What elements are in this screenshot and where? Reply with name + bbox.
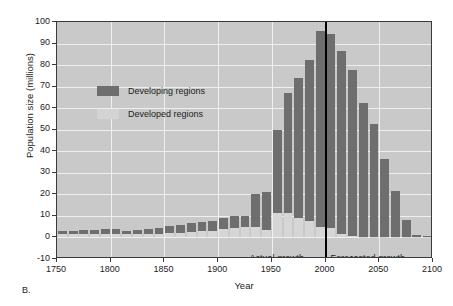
bar-1890 — [208, 221, 217, 238]
bar-2060 — [391, 191, 400, 238]
y-tick-label--10: -10 — [14, 253, 50, 263]
y-tick-label-0: 0 — [14, 231, 50, 241]
bar-segment-developed-1850 — [165, 233, 174, 237]
x-tick-label-2050: 2050 — [358, 264, 398, 274]
bar-segment-developed-1890 — [208, 231, 217, 238]
bar-1950 — [273, 130, 282, 238]
bar-segment-developing-1920 — [241, 216, 250, 227]
bar-segment-developing-2050 — [380, 159, 389, 237]
bar-segment-developing-1860 — [176, 225, 185, 233]
bar-1810 — [122, 231, 131, 238]
bar-1930 — [251, 194, 260, 237]
x-tick-label-1850: 1850 — [143, 264, 183, 274]
legend-swatch-developing — [97, 86, 119, 96]
x-tick-label-1750: 1750 — [36, 264, 76, 274]
y-tick-label-100: 100 — [14, 16, 50, 26]
bar-segment-developed-2010 — [337, 234, 346, 237]
bar-1840 — [155, 228, 164, 237]
x-tick-mark-1900 — [217, 258, 218, 262]
x-tick-label-1800: 1800 — [90, 264, 130, 274]
y-tick-mark-20 — [52, 193, 56, 194]
bar-segment-developing-2000 — [327, 34, 336, 228]
bar-1830 — [144, 229, 153, 237]
bar-1980 — [305, 60, 314, 238]
bar-segment-developing-1910 — [230, 216, 239, 228]
x-tick-label-2000: 2000 — [305, 264, 345, 274]
x-tick-mark-2050 — [378, 258, 379, 262]
y-tick-mark-50 — [52, 129, 56, 130]
bar-1870 — [187, 223, 196, 237]
bar-segment-developing-1960 — [284, 93, 293, 213]
gridline-y-90 — [57, 44, 431, 45]
bar-segment-developing-1880 — [198, 222, 207, 231]
bar-1880 — [198, 222, 207, 237]
bar-segment-developed-1780 — [90, 234, 99, 237]
bar-1900 — [219, 218, 228, 237]
bar-segment-developed-1830 — [144, 234, 153, 238]
bar-segment-developing-1990 — [316, 31, 325, 227]
bar-segment-developed-1870 — [187, 232, 196, 237]
bar-segment-developing-2010 — [337, 51, 346, 234]
population-growth-figure: Actual growth Forecasted growth Developi… — [0, 0, 453, 306]
bar-segment-developed-1760 — [69, 234, 78, 237]
bar-1910 — [230, 216, 239, 237]
x-axis-title: Year — [56, 280, 432, 291]
bar-segment-developing-1870 — [187, 223, 196, 232]
bar-2020 — [348, 70, 357, 237]
x-tick-label-1900: 1900 — [197, 264, 237, 274]
bar-1780 — [90, 230, 99, 238]
bar-1790 — [101, 229, 110, 237]
gridline-y-80 — [57, 65, 431, 66]
legend-label-developed: Developed regions — [128, 109, 203, 119]
bar-segment-developing-1970 — [294, 78, 303, 218]
y-tick-mark-10 — [52, 215, 56, 216]
bar-segment-developed-1990 — [316, 227, 325, 238]
bar-segment-developed-1790 — [101, 234, 110, 237]
legend-swatch-developed — [97, 109, 119, 119]
bar-2040 — [370, 124, 379, 238]
y-tick-label-10: 10 — [14, 209, 50, 219]
bar-segment-developed-1840 — [155, 234, 164, 238]
bar-1750 — [58, 231, 67, 237]
y-tick-mark-60 — [52, 107, 56, 108]
bar-segment-developed-1770 — [79, 234, 88, 237]
y-tick-mark-0 — [52, 236, 56, 237]
x-tick-mark-1850 — [163, 258, 164, 262]
bar-1860 — [176, 225, 185, 238]
bar-segment-developed-1970 — [294, 218, 303, 237]
bar-1920 — [241, 216, 250, 238]
y-tick-label-20: 20 — [14, 188, 50, 198]
y-tick-mark-80 — [52, 64, 56, 65]
bar-2000 — [327, 34, 336, 238]
bar-1800 — [112, 229, 121, 238]
bar-segment-developed-1900 — [219, 229, 228, 237]
bar-segment-developed-1860 — [176, 233, 185, 238]
forecasted-growth-label: Forecasted growth — [331, 253, 406, 258]
x-tick-mark-1800 — [110, 258, 111, 262]
bar-1960 — [284, 93, 293, 237]
bar-segment-developed-1920 — [241, 227, 250, 237]
x-tick-mark-2100 — [432, 258, 433, 262]
bar-2080 — [412, 235, 421, 238]
bar-segment-developed-1940 — [262, 230, 271, 238]
bar-segment-developed-1880 — [198, 231, 207, 237]
bar-segment-developed-1960 — [284, 213, 293, 238]
bar-segment-developed-1980 — [305, 221, 314, 237]
bar-segment-developed-1910 — [230, 228, 239, 237]
y-tick-mark-30 — [52, 172, 56, 173]
bar-2030 — [359, 103, 368, 237]
bar-2090 — [423, 236, 432, 237]
bar-segment-developing-1900 — [219, 218, 228, 229]
bar-segment-developing-1890 — [208, 221, 217, 231]
bar-segment-developing-1950 — [273, 130, 282, 213]
bar-1970 — [294, 78, 303, 237]
actual-growth-label: Actual growth — [250, 253, 305, 258]
bar-segment-developing-2070 — [402, 220, 411, 237]
panel-label: B. — [22, 285, 31, 295]
bar-segment-developing-2030 — [359, 103, 368, 237]
x-tick-mark-1750 — [56, 258, 57, 262]
actual-forecast-divider — [325, 22, 327, 257]
bar-segment-developed-1800 — [112, 234, 121, 237]
gridline-y-0 — [57, 237, 431, 238]
y-tick-mark-70 — [52, 86, 56, 87]
